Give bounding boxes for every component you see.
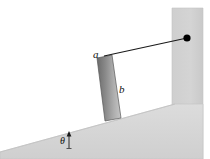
diagram-canvas (0, 0, 210, 159)
label-rod-b: b (119, 84, 125, 95)
rod-shape (97, 55, 121, 121)
pivot-dot-icon (183, 34, 190, 41)
incline-shape (0, 104, 203, 159)
label-incline-angle-theta: θ (60, 136, 65, 146)
label-string-segment-a: a (93, 49, 99, 60)
physics-diagram-figure: a b θ (0, 0, 210, 159)
